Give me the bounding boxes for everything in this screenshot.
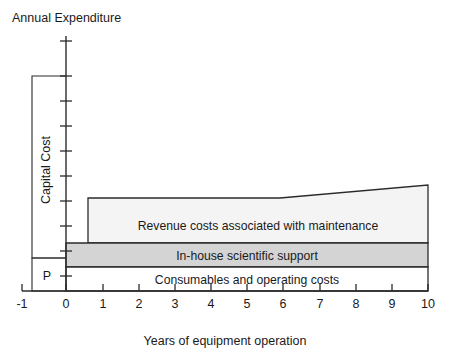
x-tick-label: 9	[389, 297, 396, 311]
x-tick-label: 5	[244, 297, 251, 311]
x-axis-title: Years of equipment operation	[144, 334, 307, 348]
expenditure-chart: Annual Expenditure Revenue costs associa…	[0, 0, 449, 363]
x-tick-label: 3	[172, 297, 179, 311]
x-tick-label: -1	[16, 297, 27, 311]
capital-cost-bracket: Capital Cost	[32, 76, 66, 258]
x-tick-label: 0	[63, 297, 70, 311]
band-label-revenue-costs: Revenue costs associated with maintenanc…	[138, 219, 379, 233]
x-tick-label: 4	[208, 297, 215, 311]
chart-title: Annual Expenditure	[12, 11, 121, 25]
band-revenue-costs	[88, 185, 428, 243]
x-tick-label: 1	[100, 297, 107, 311]
band-label-inhouse-support: In-house scientific support	[176, 249, 318, 263]
capital-cost-label: Capital Cost	[39, 135, 53, 204]
x-tick-label: 6	[280, 297, 287, 311]
x-tick-label: 10	[421, 297, 435, 311]
x-tick-label: 2	[136, 297, 143, 311]
chart-figure: Annual Expenditure Revenue costs associa…	[0, 0, 449, 363]
x-tick-label: 8	[353, 297, 360, 311]
x-tick-label: 7	[317, 297, 324, 311]
purchase-label: P	[43, 269, 51, 283]
purchase-bracket: P	[32, 258, 66, 291]
